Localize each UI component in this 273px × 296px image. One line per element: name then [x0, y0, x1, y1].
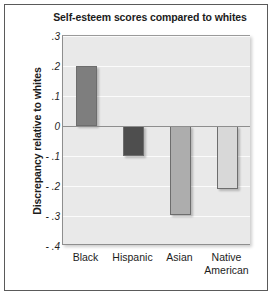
plot-area: .3.2.10- .1- .2- .3- .4: [62, 35, 250, 245]
chart-figure: Self-esteem scores compared to whites Di…: [0, 0, 273, 296]
x-axis-tick-label-line: Native: [204, 251, 248, 264]
gridline: [63, 36, 250, 37]
y-axis-tick-label: .2: [26, 61, 60, 72]
y-axis-tick-label: .3: [26, 31, 60, 42]
x-axis-tick-label-line: Hispanic: [112, 251, 152, 264]
x-axis-tick-label-line: Black: [73, 251, 99, 264]
x-axis-tick-label: NativeAmerican: [204, 251, 248, 277]
zero-line: [63, 126, 250, 127]
y-axis-tick-label: - .2: [26, 181, 60, 192]
y-axis-tick-label: - .1: [26, 151, 60, 162]
chart-title: Self-esteem scores compared to whites: [36, 11, 264, 23]
x-axis-tick-label: Asian: [166, 251, 192, 264]
bar: [123, 126, 144, 156]
x-axis-tick-label-line: Asian: [166, 251, 192, 264]
x-axis-line: [63, 244, 250, 245]
bar: [76, 66, 97, 126]
y-axis-tick-label: - .3: [26, 211, 60, 222]
x-axis-tick-label-line: American: [204, 264, 248, 277]
bar: [170, 126, 191, 215]
x-axis-tick-label: Hispanic: [112, 251, 152, 264]
x-axis-tick-label: Black: [73, 251, 99, 264]
y-axis-tick-label: 0: [26, 121, 60, 132]
y-axis-tick-label: .1: [26, 91, 60, 102]
bar: [217, 126, 238, 189]
gridline: [63, 216, 250, 217]
y-axis-tick-label: - .4: [26, 241, 60, 252]
